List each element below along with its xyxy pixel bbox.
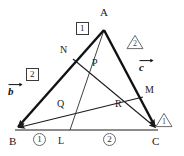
- vector-label-c: c: [139, 58, 144, 73]
- vertex-label-B: B: [9, 136, 16, 147]
- vector-label-b: b: [8, 82, 14, 97]
- point-label-R: R: [115, 99, 122, 109]
- ratio-badge-ac-1-value: 1: [162, 118, 166, 128]
- point-label-Q: Q: [57, 99, 64, 109]
- ratio-badge-ab-2: 2: [26, 68, 39, 81]
- segment-cevian-M-B: [19, 97, 144, 128]
- point-label-M: M: [145, 85, 154, 95]
- ratio-badge-ac-1: 1: [155, 112, 173, 128]
- point-label-P: P: [92, 58, 98, 68]
- vector-arrow-b-icon: [8, 82, 14, 87]
- ratio-badge-ac-2-value: 2: [133, 40, 137, 50]
- vector-c-glyph: c: [139, 62, 144, 73]
- vertex-label-C: C: [152, 136, 159, 147]
- vertex-label-A: A: [100, 7, 108, 18]
- ratio-badge-bc-2: 2: [103, 133, 116, 146]
- ratio-badge-ab-1: 1: [76, 22, 89, 35]
- point-label-N: N: [60, 45, 67, 55]
- vector-arrow-c-icon: [139, 58, 144, 63]
- geometry-figure: A B C N P Q R M L 1 2 2 1 1 2 b: [0, 0, 184, 156]
- point-label-L: L: [58, 136, 64, 146]
- ratio-badge-ac-2: 2: [126, 34, 144, 50]
- ratio-badge-bc-1: 1: [33, 133, 46, 146]
- vector-b-glyph: b: [8, 86, 14, 97]
